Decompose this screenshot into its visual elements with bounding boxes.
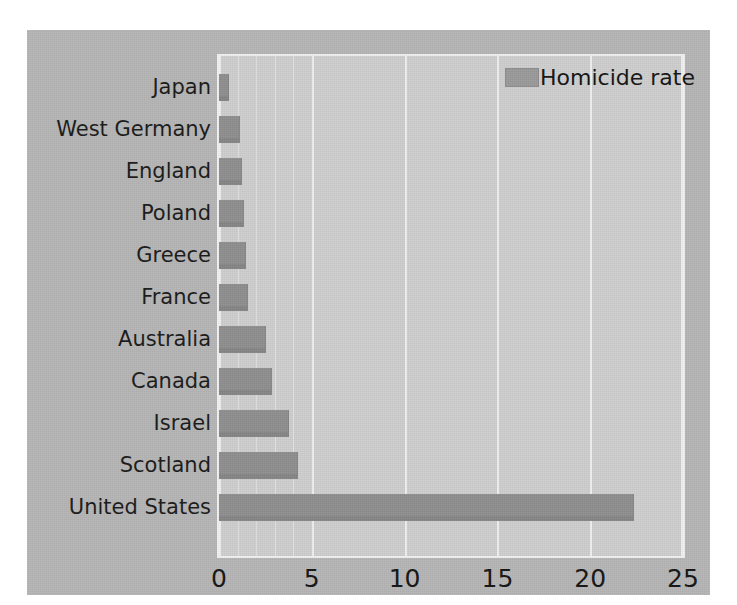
- bar-row: [219, 402, 683, 444]
- y-axis-label-united-states: United States: [31, 486, 211, 528]
- bar-shadow: [219, 474, 297, 479]
- y-axis-label-greece: Greece: [31, 234, 211, 276]
- bar-shadow: [219, 516, 633, 521]
- bar: [219, 200, 244, 227]
- bar: [219, 158, 242, 185]
- bar: [219, 242, 246, 269]
- bar-row: [219, 108, 683, 150]
- bar-shadow: [219, 264, 245, 269]
- y-axis-label-canada: Canada: [31, 360, 211, 402]
- bar-row: [219, 444, 683, 486]
- bar: [219, 284, 248, 311]
- bar: [219, 410, 289, 437]
- bar-row: [219, 276, 683, 318]
- legend-swatch-homicide-rate: [505, 68, 539, 87]
- x-tick-5: 5: [304, 564, 320, 593]
- y-axis-label-japan: Japan: [31, 66, 211, 108]
- x-tick-0: 0: [211, 564, 227, 593]
- bar-shadow: [219, 432, 288, 437]
- chart-figure: Homicide rate JapanWest GermanyEnglandPo…: [27, 30, 710, 595]
- bar-shadow: [219, 222, 243, 227]
- bar-shadow: [219, 348, 265, 353]
- y-axis-label-west-germany: West Germany: [31, 108, 211, 150]
- y-axis-label-france: France: [31, 276, 211, 318]
- y-axis-label-england: England: [31, 150, 211, 192]
- legend-label-homicide-rate: Homicide rate: [540, 65, 695, 90]
- y-axis-label-scotland: Scotland: [31, 444, 211, 486]
- bar: [219, 116, 240, 143]
- x-tick-25: 25: [667, 564, 699, 593]
- chart-legend: Homicide rate: [505, 66, 695, 88]
- bar: [219, 452, 298, 479]
- bar: [219, 368, 272, 395]
- y-axis-label-australia: Australia: [31, 318, 211, 360]
- x-axis-tick-labels: 0510152025: [219, 564, 683, 604]
- y-axis-label-israel: Israel: [31, 402, 211, 444]
- bar-shadow: [219, 180, 241, 185]
- bar: [219, 326, 266, 353]
- y-axis-label-poland: Poland: [31, 192, 211, 234]
- bar-shadow: [219, 306, 247, 311]
- bar-row: [219, 192, 683, 234]
- bar: [219, 74, 229, 101]
- x-tick-10: 10: [389, 564, 421, 593]
- plot-area: Homicide rate: [219, 56, 683, 556]
- bar-row: [219, 318, 683, 360]
- bar-shadow: [219, 96, 228, 101]
- bar: [219, 494, 634, 521]
- bar-row: [219, 486, 683, 528]
- bar-shadow: [219, 138, 239, 143]
- x-tick-20: 20: [574, 564, 606, 593]
- bar-shadow: [219, 390, 271, 395]
- bar-row: [219, 150, 683, 192]
- bar-row: [219, 234, 683, 276]
- bar-row: [219, 360, 683, 402]
- x-tick-15: 15: [481, 564, 513, 593]
